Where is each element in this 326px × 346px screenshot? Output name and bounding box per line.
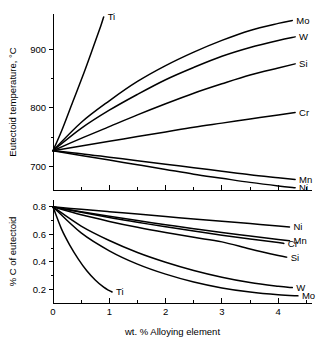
series-label-ni: Ni [293, 221, 302, 232]
series-label-ni: Ni [299, 182, 308, 193]
x-tick-label: 4 [276, 306, 281, 317]
series-label-mo: Mo [302, 290, 315, 301]
y-axis-title: Eutectoid temperature, °C [7, 47, 18, 157]
y-axis-title: % C of eutectoid [7, 217, 18, 287]
chart-eutectoid-temperature: 700800900TiMoWSiCrMnNiEutectoid temperat… [7, 11, 312, 193]
y-tick-label: 900 [30, 44, 46, 55]
series-label-cr: Cr [299, 107, 309, 118]
axis-spines [53, 200, 312, 303]
curve-si [53, 207, 287, 257]
chart-percent-carbon-of-eutectoid: 0.20.40.60.801234NiMnCrSiWMoTi% C of eut… [7, 200, 315, 337]
series-label-si: Si [291, 252, 299, 263]
y-tick-label: 700 [30, 161, 46, 172]
series-label-si: Si [299, 58, 307, 69]
axis-spines [53, 14, 312, 190]
y-tick-label: 800 [30, 102, 46, 113]
curve-w [53, 37, 295, 151]
y-tick-label: 0.4 [33, 256, 46, 267]
curve-w [53, 207, 292, 288]
series-label-ti: Ti [108, 11, 116, 22]
figure-container: 700800900TiMoWSiCrMnNiEutectoid temperat… [0, 0, 326, 346]
curve-ni [53, 151, 295, 188]
eutectoid-diagram-svg: 700800900TiMoWSiCrMnNiEutectoid temperat… [0, 0, 326, 346]
series-label-ti: Ti [116, 286, 124, 297]
x-tick-label: 3 [219, 306, 224, 317]
y-tick-label: 0.2 [33, 284, 46, 295]
curve-mn [53, 151, 295, 180]
x-axis-title: wt. % Alloying element [124, 326, 220, 337]
curve-cr [53, 113, 295, 151]
y-tick-label: 0.8 [33, 201, 46, 212]
x-tick-label: 1 [107, 306, 112, 317]
curve-si [53, 64, 295, 151]
series-label-w: W [299, 31, 308, 42]
series-label-cr: Cr [288, 238, 298, 249]
x-tick-label: 0 [50, 306, 55, 317]
y-tick-label: 0.6 [33, 229, 46, 240]
series-label-mo: Mo [296, 15, 309, 26]
x-tick-label: 2 [163, 306, 168, 317]
